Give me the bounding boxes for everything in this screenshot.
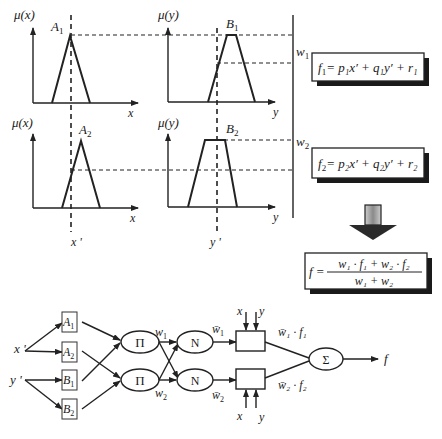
set-label-a1: A1	[50, 19, 63, 36]
plot-a1: μ(x) A1 x	[13, 7, 138, 120]
membership-a2	[62, 141, 100, 208]
node-b2: B2	[62, 399, 77, 419]
w2-label: w2	[296, 134, 309, 151]
input-x-prime: x '	[13, 341, 26, 356]
svg-text:Π: Π	[135, 335, 144, 350]
w1-label: w1	[296, 44, 309, 61]
node-consequent-2	[236, 369, 265, 389]
anfis-diagram: μ(x) A1 x μ(y) B1 y μ(x) A2 x μ(y) B2 y …	[0, 0, 442, 439]
wbar1-edge-label: w̄1	[212, 322, 224, 338]
wbar2-edge-label: w̄2	[212, 388, 224, 404]
layer4-output-2: w̄₂ · f₂	[278, 378, 307, 392]
svg-text:y: y	[258, 304, 265, 318]
x-prime-label: x '	[70, 235, 82, 249]
anfis-network: x ' y ' A1 A2 B1 B2 Π	[8, 304, 390, 424]
svg-text:N: N	[191, 374, 200, 388]
axis-label-mu-x: μ(x)	[11, 115, 33, 130]
f-lhs: f =	[309, 264, 325, 279]
f-denominator: w₁ + w₂	[355, 274, 393, 288]
axis-label-y: y	[272, 105, 279, 119]
f-numerator: w₁ · f₁ + w₂ · f₂	[338, 257, 409, 271]
set-label-b1: B1	[226, 16, 238, 33]
axis-label-x: x	[129, 211, 136, 225]
axis-label-y: y	[272, 210, 279, 224]
down-arrow-icon	[349, 205, 397, 240]
node-consequent-1	[236, 331, 265, 351]
svg-text:N: N	[191, 336, 200, 350]
y-prime-label: y '	[209, 235, 221, 249]
axis-label-mu-y: μ(y)	[157, 115, 179, 130]
f1-equation: f1= p₁x′ + q₁y′ + r₁	[318, 60, 418, 77]
svg-text:Π: Π	[135, 373, 144, 388]
axis-label-mu-y: μ(y)	[157, 7, 179, 22]
equation-f2-box: f2= p₂x′ + q₂y′ + r₂	[312, 148, 429, 183]
membership-b2	[188, 140, 237, 207]
set-label-b2: B2	[226, 121, 238, 138]
svg-text:y: y	[258, 410, 265, 424]
membership-b1	[208, 35, 255, 102]
equation-f-box: f = w₁ · f₁ + w₂ · f₂ w₁ + w₂	[305, 253, 432, 294]
node-a1: A1	[62, 312, 77, 332]
equation-f1-box: f1= p₁x′ + q₁y′ + r₁	[312, 53, 429, 86]
node-a2: A2	[62, 342, 77, 362]
node-b1: B1	[62, 370, 77, 390]
w2-edge-label: w2	[155, 386, 167, 402]
set-label-a2: A2	[78, 122, 91, 139]
input-y-prime: y '	[8, 372, 22, 387]
f2-equation: f2= p₂x′ + q₂y′ + r₂	[318, 156, 418, 173]
axis-label-mu-x: μ(x)	[13, 7, 35, 22]
w1-edge-label: w1	[155, 325, 167, 341]
output-f: f	[384, 351, 390, 366]
axis-label-x: x	[127, 106, 134, 120]
svg-text:x: x	[236, 409, 243, 423]
svg-text:Σ: Σ	[323, 353, 330, 367]
layer4-output-1: w̄₁ · f₁	[278, 325, 307, 339]
svg-text:x: x	[236, 304, 243, 318]
